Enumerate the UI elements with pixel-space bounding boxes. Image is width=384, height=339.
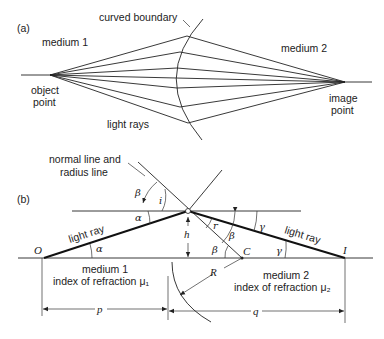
- point-O-label: O: [34, 244, 42, 256]
- incidence-arc: [162, 189, 166, 211]
- point-C-label: C: [243, 245, 251, 257]
- part-a: (a) curved boundary medium 1 medium 2 me…: [17, 11, 372, 140]
- radius-label: R: [209, 266, 217, 278]
- beta-right-label: β: [228, 230, 235, 241]
- object-point-label-1: object: [31, 84, 59, 96]
- curved-boundary-label: curved boundary: [99, 11, 178, 23]
- alpha-upper-arc: [148, 211, 150, 224]
- incident-light-ray: [44, 211, 188, 258]
- object-point-label-2: point: [33, 96, 56, 108]
- light-rays-label: light rays: [107, 118, 149, 130]
- p-label: p: [96, 303, 103, 315]
- beta-center-label: β: [211, 244, 218, 255]
- image-point-label-1: image: [329, 92, 358, 104]
- gamma-upper-arc: [254, 211, 257, 231]
- gamma-lower-arc: [285, 241, 286, 258]
- medium-2-index-label: index of refraction μ₂: [234, 281, 331, 293]
- normal-line-label-2: radius line: [60, 166, 108, 178]
- curved-boundary-b: [172, 262, 211, 322]
- refraction-arc: [206, 218, 212, 228]
- medium-2-label-visible: medium 2: [281, 42, 327, 54]
- beta-center-arc: [225, 246, 228, 258]
- normal-leader: [128, 163, 145, 176]
- normal-line-label-1: normal line and: [49, 153, 121, 165]
- part-b-label: (b): [17, 193, 30, 205]
- height-label: h: [184, 228, 190, 240]
- part-b: (b) normal line and radius line h R O I …: [17, 153, 373, 323]
- medium-1-index-label: index of refraction μ₁: [53, 275, 149, 287]
- refraction-label: r: [213, 220, 219, 231]
- alpha-lower-label: α: [96, 243, 103, 254]
- left-light-ray-label: light ray: [67, 222, 106, 245]
- gamma-lower-label: γ: [276, 245, 282, 256]
- beta-upper-label: β: [134, 187, 141, 198]
- radius-arrow: [180, 274, 213, 295]
- beta-upper-arc: [143, 182, 157, 203]
- image-point-label-2: point: [331, 104, 354, 116]
- boundary-tangent: [188, 170, 222, 211]
- medium-1-b-label: medium 1: [82, 263, 128, 275]
- incidence-label: i: [159, 195, 162, 206]
- right-light-ray-label: light ray: [283, 223, 322, 245]
- medium-2-b-label: medium 2: [263, 269, 309, 281]
- incidence-point: [186, 209, 191, 214]
- radius-line-upper: [224, 258, 242, 268]
- part-a-label: (a): [17, 22, 30, 34]
- medium-1-label: medium 1: [42, 36, 88, 48]
- alpha-lower-arc: [90, 244, 92, 258]
- gamma-upper-label: γ: [259, 221, 265, 232]
- boundary-leader: [183, 20, 190, 27]
- q-label: q: [253, 305, 259, 317]
- alpha-upper-label: α: [135, 212, 142, 223]
- refraction-diagram: (a) curved boundary medium 1 medium 2 me…: [0, 0, 384, 339]
- point-I-label: I: [342, 244, 348, 256]
